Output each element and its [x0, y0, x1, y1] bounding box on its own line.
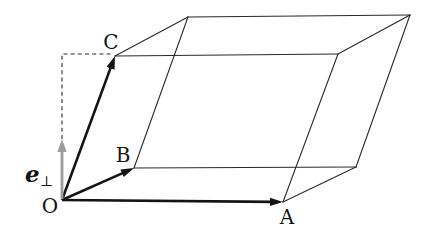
vertex-label-C: C — [103, 30, 118, 54]
vertex-label-A: A — [279, 205, 295, 229]
vector-OA-shaft — [62, 200, 273, 202]
vector-e-perp-head — [57, 139, 66, 152]
edge-B-AB — [134, 167, 356, 168]
projection-dashed-line — [62, 54, 113, 139]
edge-ABC-AB — [356, 15, 410, 167]
vertex-label-O: O — [42, 194, 58, 218]
figure-canvas: O A B C e⊥ — [0, 0, 430, 249]
edge-AC-ABC — [338, 15, 410, 54]
vector-OB-head — [120, 168, 134, 177]
vector-OC-head — [107, 56, 115, 70]
perp-subscript-symbol: ⊥ — [40, 173, 53, 189]
edge-AC-C — [115, 54, 338, 56]
parallelepiped-diagram: O A B C e⊥ — [0, 0, 430, 249]
vertex-label-B: B — [116, 143, 131, 167]
vector-OC-shaft — [62, 65, 112, 200]
edge-B-BC — [134, 17, 188, 168]
edge-ABC-BC — [188, 15, 410, 17]
edge-BC-C — [115, 17, 188, 56]
e-perp-label: e⊥ — [25, 160, 53, 189]
e-symbol: e — [25, 160, 40, 187]
